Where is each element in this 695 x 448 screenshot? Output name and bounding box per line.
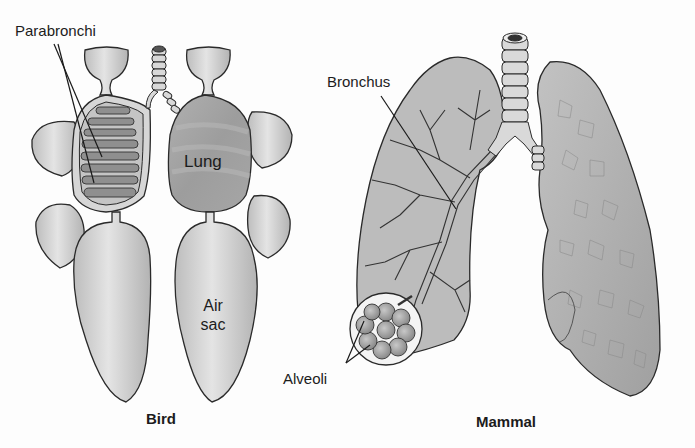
bird-trachea [146, 46, 181, 114]
bird-posterior-air-sac-left [74, 212, 151, 402]
label-lung: Lung [184, 152, 222, 172]
caption-mammal: Mammal [476, 413, 536, 430]
caption-bird: Bird [146, 410, 176, 427]
bird-anterior-air-sac-right [187, 47, 231, 95]
diagram-illustration [0, 0, 695, 448]
mammal-respiratory-system [346, 33, 660, 396]
bird-side-air-sac-right-lower [248, 196, 291, 259]
bird-respiratory-system [32, 44, 292, 402]
parabronchi-tubes [81, 107, 139, 197]
label-bronchus: Bronchus [327, 73, 390, 90]
bird-side-air-sac-right-upper [248, 112, 293, 168]
label-air-sac: Air sac [200, 296, 226, 334]
label-alveoli: Alveoli [283, 370, 327, 387]
bird-anterior-air-sac-left [85, 47, 129, 95]
label-parabronchi: Parabronchi [15, 22, 96, 39]
respiratory-diagram: Parabronchi Lung Air sac Bird Bronchus A… [0, 0, 695, 448]
label-air-sac-line2: sac [200, 315, 226, 334]
label-air-sac-line1: Air [200, 296, 226, 315]
mammal-lung-textured [538, 62, 660, 396]
